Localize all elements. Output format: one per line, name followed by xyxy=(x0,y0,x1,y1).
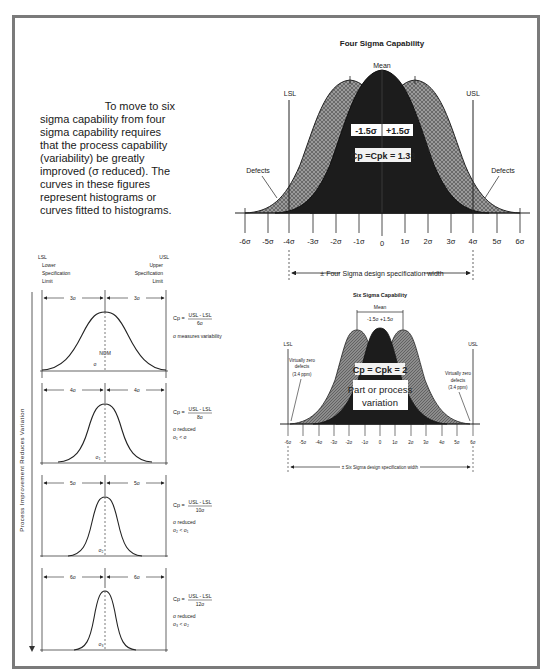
formula-denominator: 8σ xyxy=(197,414,204,420)
tick-label: 1σ xyxy=(392,440,398,445)
six-sigma-spec-width-label: ± Six Sigma design specification width xyxy=(342,465,419,470)
tick-label: -1σ xyxy=(362,440,369,445)
defects-left-text: (3.4 ppm) xyxy=(292,372,312,377)
four-sigma-tick-labels: -6σ -5σ -4σ -3σ -2σ -1σ 0 1σ 2σ 3σ 4σ 5σ… xyxy=(239,237,524,248)
tick-label: -5σ xyxy=(262,237,274,246)
left-lsl-label: LSL xyxy=(38,254,47,260)
left-usl-desc-2: Specification xyxy=(135,270,164,276)
half-width-right: 3σ xyxy=(134,295,141,301)
defects-left-pointer xyxy=(262,176,277,198)
tick-label: -4σ xyxy=(283,237,295,246)
left-usl-desc-3: Limit xyxy=(152,278,163,284)
defects-left-text: defects xyxy=(295,364,310,369)
panel-note-1: σ reduced xyxy=(173,519,196,525)
six-sigma-shift-label: -1.5σ +1.5σ xyxy=(367,316,394,322)
nom-label: NOM xyxy=(99,350,111,356)
formula-denominator: 6σ xyxy=(197,320,204,326)
defects-right-text: Virtually zero xyxy=(445,371,471,376)
half-width-left: 4σ xyxy=(70,387,77,393)
sigma-mark: σ₃ xyxy=(98,641,103,647)
tick-label: -1σ xyxy=(353,237,365,246)
panel-note-1: σ reduced xyxy=(173,426,196,432)
capability-panel-3: 5σ 5σ σ₂ Cp = USL - LSL 10σ σ reduced σ₂… xyxy=(40,475,212,557)
six-sigma-chart: Six Sigma Capability Mean -1.5σ +1.5σ LS… xyxy=(280,292,480,472)
tick-label: 2σ xyxy=(408,440,414,445)
half-width-left: 5σ xyxy=(70,480,77,486)
formula-denominator: 12σ xyxy=(196,601,206,607)
formula-numerator: USL - LSL xyxy=(189,593,212,599)
four-sigma-mean-label: Mean xyxy=(373,62,391,69)
six-sigma-mean-label: Mean xyxy=(374,304,387,310)
six-sigma-cp-label: Cp = Cpk = 2 xyxy=(353,365,408,375)
defects-right-text: (3.4 ppm) xyxy=(448,385,468,390)
four-sigma-shift-minus: -1.5σ xyxy=(355,126,377,136)
capability-panel-2: 4σ 4σ σ₁ Cp = USL - LSL 8σ σ reduced σ₁ … xyxy=(40,383,212,465)
six-sigma-defects-left: Virtually zero defects (3.4 ppm) xyxy=(289,358,315,377)
six-sigma-ticks xyxy=(288,424,473,436)
diagram-canvas: Four Sigma Capability Mean LSL USL -1.5σ… xyxy=(0,0,544,670)
tick-label: 5σ xyxy=(454,440,460,445)
tick-label: -3σ xyxy=(331,440,338,445)
cp-prefix: Cp = xyxy=(173,409,185,415)
six-sigma-variation-line1: Part or process xyxy=(348,384,413,395)
tick-label: 6σ xyxy=(516,237,525,246)
left-usl-label: USL xyxy=(159,254,169,260)
six-sigma-lsl-label: LSL xyxy=(284,341,293,347)
defects-right-text: defects xyxy=(451,378,466,383)
sigma-mark: σ₂ xyxy=(98,547,103,553)
panel-note-1: σ reduced xyxy=(173,613,196,619)
tick-label: 2σ xyxy=(424,237,433,246)
four-sigma-shift-plus: +1.5σ xyxy=(386,126,410,136)
formula-numerator: USL - LSL xyxy=(189,499,212,505)
four-sigma-defects-left: Defects xyxy=(246,167,270,174)
bell-curve-1 xyxy=(42,312,166,370)
half-width-right: 6σ xyxy=(134,574,141,580)
six-sigma-defects-right: Virtually zero defects (3.4 ppm) xyxy=(445,371,471,390)
tick-label: -2σ xyxy=(330,237,342,246)
sigma-mark: σ xyxy=(93,361,97,367)
left-lsl-desc-2: Specification xyxy=(42,270,71,276)
four-sigma-title: Four Sigma Capability xyxy=(340,39,425,48)
six-sigma-defects-right-pointer xyxy=(459,392,470,421)
left-lsl-desc-1: Lower xyxy=(42,262,56,268)
tick-label: -6σ xyxy=(239,237,251,246)
process-improvement-arrowhead xyxy=(29,646,35,652)
left-lsl-desc-3: Limit xyxy=(42,278,53,284)
panel-note-2: σ₂ < σ₁ xyxy=(173,527,189,533)
six-sigma-usl-label: USL xyxy=(468,341,478,347)
four-sigma-defects-right: Defects xyxy=(491,167,515,174)
panel-note-2: σ₁ < σ xyxy=(173,434,187,440)
tick-label: -4σ xyxy=(316,440,323,445)
tick-label: 0 xyxy=(379,440,382,445)
capability-panel-4: 6σ 6σ σ₃ Cp = USL - LSL 12σ σ reduced σ₃… xyxy=(40,568,212,652)
panel-note-1: σ measures variability xyxy=(173,333,222,339)
six-sigma-title: Six Sigma Capability xyxy=(353,292,408,298)
tick-label: 1σ xyxy=(401,237,410,246)
defects-left-text: Virtually zero xyxy=(289,358,315,363)
tick-label: 6σ xyxy=(470,440,476,445)
tick-label: -6σ xyxy=(285,440,292,445)
formula-numerator: USL - LSL xyxy=(189,406,212,412)
tick-label: 3σ xyxy=(447,237,456,246)
left-usl-desc-1: Upper xyxy=(149,262,163,268)
formula-numerator: USL - LSL xyxy=(189,312,212,318)
tick-label: -5σ xyxy=(300,440,307,445)
four-sigma-lsl-label: LSL xyxy=(284,90,297,97)
left-panels: LSL Lower Specification Limit USL Upper … xyxy=(19,254,222,652)
capability-panel-1: 3σ 3σ NOM σ Cp = USL - LSL 6σ σ measures… xyxy=(40,290,222,378)
formula-denominator: 10σ xyxy=(196,507,206,513)
tick-label: 5σ xyxy=(493,237,502,246)
four-sigma-usl-label: USL xyxy=(466,90,480,97)
panel-note-2: σ₃ < σ₂ xyxy=(173,621,189,627)
six-sigma-variation-line2: variation xyxy=(362,397,398,408)
defects-right-pointer xyxy=(485,176,499,198)
half-width-left: 3σ xyxy=(70,295,77,301)
four-sigma-spec-width-label: ± Four Sigma design specification width xyxy=(320,270,443,278)
half-width-right: 5σ xyxy=(134,480,141,486)
tick-label: -3σ xyxy=(307,237,319,246)
process-improvement-label: Process Improvement Reduces Variation xyxy=(19,408,25,531)
sigma-mark: σ₁ xyxy=(96,454,101,460)
half-width-right: 4σ xyxy=(134,387,141,393)
half-width-left: 6σ xyxy=(70,574,77,580)
four-sigma-chart: Four Sigma Capability Mean LSL USL -1.5σ… xyxy=(235,39,530,280)
